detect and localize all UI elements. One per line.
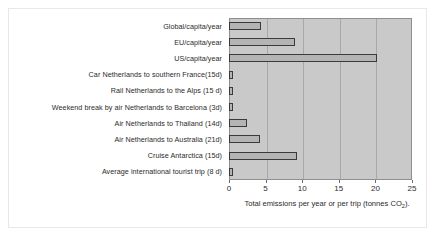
- category-label-rail-alps: Rail Netherlands to the Alps (15 d): [0, 83, 226, 99]
- x-axis-tick-labels: 0 5 10 15 20 25: [229, 184, 412, 196]
- category-label-air-australia: Air Netherlands to Australia (21d): [0, 131, 226, 147]
- bar-air-thailand: [229, 119, 247, 127]
- bar-row: [229, 115, 412, 131]
- bar-avg-tourist-trip: [229, 168, 233, 176]
- bar-row: [229, 67, 412, 83]
- x-tick-mark-0: [229, 180, 230, 183]
- bar-air-australia: [229, 135, 260, 143]
- x-axis-title-tail: ).: [405, 199, 410, 208]
- x-axis-title-main: Total emissions per year or per trip (to…: [244, 199, 401, 208]
- x-tick-mark-5: [266, 180, 267, 183]
- bar-eu-capita-year: [229, 38, 295, 46]
- bar-row: [229, 34, 412, 50]
- x-tick-mark-15: [339, 180, 340, 183]
- x-tick-label-15: 15: [334, 184, 343, 193]
- category-label-car-southern-france: Car Netherlands to southern France(15d): [0, 67, 226, 83]
- bar-rail-alps: [229, 87, 233, 95]
- bar-row: [229, 131, 412, 147]
- category-label-avg-tourist-trip: Average international tourist trip (8 d): [0, 164, 226, 180]
- bars-layer: [229, 18, 412, 180]
- category-label-eu-capita-year: EU/capita/year: [0, 34, 226, 50]
- bar-cruise-antarctica: [229, 152, 297, 160]
- bar-row: [229, 164, 412, 180]
- category-label-cruise-antarctica: Cruise Antarctica (15d): [0, 148, 226, 164]
- category-label-air-thailand: Air Netherlands to Thailand (14d): [0, 115, 226, 131]
- category-label-global-capita-year: Global/capita/year: [0, 18, 226, 34]
- bar-global-capita-year: [229, 22, 261, 30]
- bar-row: [229, 50, 412, 66]
- bar-us-capita-year: [229, 54, 377, 62]
- category-label-us-capita-year: US/capita/year: [0, 50, 226, 66]
- x-axis-title-subscript: 2: [402, 203, 405, 209]
- x-tick-label-25: 25: [408, 184, 417, 193]
- x-tick-mark-20: [375, 180, 376, 183]
- x-tick-label-20: 20: [371, 184, 380, 193]
- x-tick-label-5: 5: [263, 184, 267, 193]
- bar-car-southern-france: [229, 71, 233, 79]
- x-tick-mark-10: [302, 180, 303, 183]
- x-axis-title: Total emissions per year or per trip (to…: [229, 199, 425, 208]
- bar-row: [229, 99, 412, 115]
- chart-figure: Global/capita/year EU/capita/year US/cap…: [0, 0, 435, 239]
- x-tick-label-10: 10: [298, 184, 307, 193]
- x-tick-label-0: 0: [227, 184, 231, 193]
- category-label-weekend-barcelona: Weekend break by air Netherlands to Barc…: [0, 99, 226, 115]
- bar-row: [229, 18, 412, 34]
- bar-weekend-barcelona: [229, 103, 233, 111]
- bar-row: [229, 148, 412, 164]
- x-tick-mark-25: [412, 180, 413, 183]
- bar-row: [229, 83, 412, 99]
- category-axis-labels: Global/capita/year EU/capita/year US/cap…: [0, 18, 226, 180]
